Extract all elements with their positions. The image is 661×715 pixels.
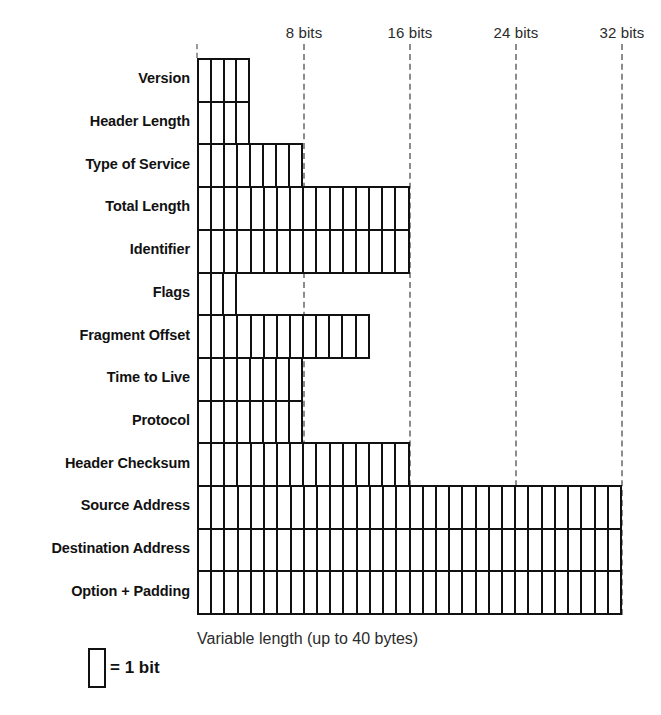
- bit-cell: [371, 487, 384, 528]
- bit-cell: [383, 444, 396, 485]
- bit-cell: [383, 188, 396, 229]
- bit-cell: [556, 530, 569, 571]
- bit-cell: [252, 231, 265, 272]
- bit-cell: [237, 103, 248, 144]
- bit-cell: [277, 145, 290, 186]
- bit-cell: [516, 487, 529, 528]
- bit-cell: [199, 359, 212, 400]
- bit-cell: [596, 530, 609, 571]
- bit-cell: [370, 231, 383, 272]
- bit-cell: [397, 530, 410, 571]
- bit-cell: [199, 316, 212, 357]
- bit-cell: [225, 359, 238, 400]
- bit-cell: [596, 572, 609, 613]
- bit-cell: [212, 572, 225, 613]
- bit-cell: [450, 530, 463, 571]
- field-row: [197, 186, 410, 231]
- bit-cell: [239, 487, 252, 528]
- bit-cell: [424, 487, 437, 528]
- tick-label-8-bits: 8 bits: [286, 24, 322, 41]
- bit-cell: [305, 530, 318, 571]
- bit-cell: [252, 188, 265, 229]
- bit-cell: [424, 572, 437, 613]
- bit-cell: [290, 359, 301, 400]
- bit-cell: [343, 316, 356, 357]
- bit-cell: [304, 316, 317, 357]
- bit-cell: [199, 530, 212, 571]
- bit-cell: [463, 530, 476, 571]
- bit-cell: [305, 572, 318, 613]
- bit-cell: [396, 231, 407, 272]
- bit-cell: [331, 444, 344, 485]
- field-row: [197, 229, 410, 274]
- bit-cell: [437, 530, 450, 571]
- field-row: [197, 400, 303, 445]
- field-row: [197, 314, 370, 359]
- bit-cell: [199, 103, 212, 144]
- bit-cell: [397, 572, 410, 613]
- bit-cell: [370, 188, 383, 229]
- bit-cell: [503, 487, 516, 528]
- bit-cell: [264, 402, 277, 443]
- bit-cell: [212, 487, 225, 528]
- bit-cell: [225, 103, 238, 144]
- bit-cell: [238, 359, 251, 400]
- bit-cell: [199, 487, 212, 528]
- bit-cell: [199, 188, 212, 229]
- bit-cell: [582, 530, 595, 571]
- field-label-header-checksum: Header Checksum: [0, 455, 190, 471]
- bit-cell: [238, 402, 251, 443]
- field-label-time-to-live: Time to Live: [0, 369, 190, 385]
- bit-cell: [543, 487, 556, 528]
- bit-cell: [344, 188, 357, 229]
- bit-cell: [357, 444, 370, 485]
- legend-label: = 1 bit: [110, 658, 160, 678]
- bit-cell: [516, 530, 529, 571]
- bit-cell: [384, 530, 397, 571]
- legend-bit-box-icon: [88, 648, 106, 688]
- bit-cell: [264, 359, 277, 400]
- bit-cell: [318, 487, 331, 528]
- bit-cell: [212, 103, 225, 144]
- bit-cell: [238, 231, 251, 272]
- bit-cell: [278, 188, 291, 229]
- bit-cell: [291, 316, 304, 357]
- bit-cell: [212, 530, 225, 571]
- bit-cell: [212, 316, 225, 357]
- field-label-fragment-offset: Fragment Offset: [0, 327, 190, 343]
- field-label-version: Version: [0, 70, 190, 86]
- bit-cell: [290, 402, 301, 443]
- bit-cell: [225, 444, 238, 485]
- bit-cell: [569, 530, 582, 571]
- bit-cell: [251, 402, 264, 443]
- bit-cell: [252, 530, 265, 571]
- bit-cell: [278, 231, 291, 272]
- bit-cell: [477, 487, 490, 528]
- bit-cell: [437, 487, 450, 528]
- bit-cell: [305, 487, 318, 528]
- bit-cell: [199, 231, 212, 272]
- bit-cell: [477, 530, 490, 571]
- bit-cell: [252, 444, 265, 485]
- bit-cell: [251, 359, 264, 400]
- bit-cell: [238, 188, 251, 229]
- bit-cell: [304, 188, 317, 229]
- bit-cell: [304, 231, 317, 272]
- bit-cell: [384, 487, 397, 528]
- bit-cell: [396, 444, 407, 485]
- bit-cell: [264, 145, 277, 186]
- bit-cell: [252, 572, 265, 613]
- bit-cell: [344, 530, 357, 571]
- bit-cell: [290, 145, 301, 186]
- bit-cell: [609, 530, 620, 571]
- bit-cell: [252, 487, 265, 528]
- bit-cell: [212, 145, 225, 186]
- bit-cell: [344, 444, 357, 485]
- bit-cell: [358, 487, 371, 528]
- bit-cell: [265, 188, 278, 229]
- bit-cell: [331, 572, 344, 613]
- bit-cell: [331, 188, 344, 229]
- bit-cell: [411, 530, 424, 571]
- bit-cell: [212, 402, 225, 443]
- bit-cell: [543, 530, 556, 571]
